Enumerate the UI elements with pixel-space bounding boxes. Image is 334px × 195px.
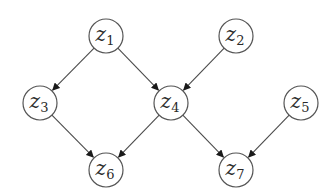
edge-z4-to-z7 [183, 115, 224, 157]
edge-z3-to-z6 [52, 115, 93, 157]
node-z2: z2 [219, 19, 253, 53]
edge-z5-to-z7 [249, 115, 290, 157]
nodes-layer: z1z2z3z4z5z6z7 [23, 19, 318, 187]
node-z7: z7 [219, 153, 253, 187]
edge-z2-to-z4 [184, 48, 225, 90]
edge-z1-to-z3 [53, 48, 94, 90]
node-z4: z4 [154, 86, 188, 120]
node-z1: z1 [89, 19, 123, 53]
dag-diagram: z1z2z3z4z5z6z7 [0, 0, 334, 195]
node-z6: z6 [89, 153, 123, 187]
edge-z1-to-z4 [118, 48, 159, 90]
node-z3: z3 [23, 86, 57, 120]
edge-z4-to-z6 [119, 115, 160, 157]
node-z5: z5 [284, 86, 318, 120]
